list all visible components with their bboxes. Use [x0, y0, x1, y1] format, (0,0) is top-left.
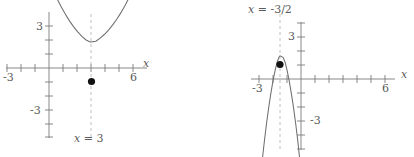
- right-x-tick-label-6: 6: [382, 83, 389, 94]
- right-y-tick-label-3: 3: [288, 31, 295, 42]
- left-y-tick-label-neg3: -3: [30, 105, 41, 116]
- right-parabola-figure: -3 6 3 -3 x x = -3/2: [207, 0, 414, 157]
- left-x-axis-label: x: [143, 58, 149, 69]
- right-equation-lhs: x: [248, 3, 254, 16]
- left-parabola-curve: [57, 0, 129, 42]
- right-plot-canvas: [207, 0, 414, 157]
- right-parabola-curve: [263, 56, 300, 157]
- right-vertex-point: [276, 61, 283, 68]
- right-y-tick-label-neg3: -3: [310, 115, 321, 126]
- left-equation-rhs: 3: [96, 132, 103, 145]
- right-x-axis-label: x: [401, 69, 407, 80]
- left-equation-annotation: x = 3: [74, 133, 103, 144]
- graph-pair-figure: -3 6 3 -3 x x = 3: [0, 0, 414, 157]
- left-parabola-figure: -3 6 3 -3 x x = 3: [0, 0, 207, 157]
- right-equation-rhs: -3/2: [270, 3, 291, 16]
- right-equation-operator: =: [258, 3, 267, 16]
- left-plot-canvas: [0, 0, 207, 157]
- left-equation-operator: =: [84, 132, 93, 145]
- left-vertex-point: [88, 78, 95, 85]
- left-x-tick-label-neg3: -3: [3, 72, 14, 83]
- left-y-tick-label-3: 3: [36, 21, 43, 32]
- left-x-tick-label-6: 6: [130, 72, 137, 83]
- left-equation-lhs: x: [74, 132, 80, 145]
- right-x-tick-label-neg3: -3: [252, 83, 263, 94]
- right-equation-annotation: x = -3/2: [248, 4, 292, 15]
